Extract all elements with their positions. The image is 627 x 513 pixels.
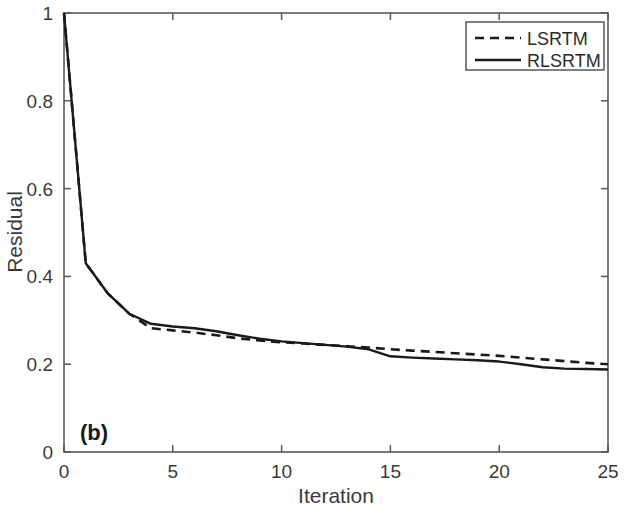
y-axis-title: Residual	[3, 191, 26, 273]
chart-canvas: 0510152025 00.20.40.60.81 Iteration Resi…	[0, 0, 627, 513]
x-axis-title: Iteration	[298, 484, 374, 507]
legend: LSRTM RLSRTM	[466, 22, 604, 71]
residual-convergence-chart: 0510152025 00.20.40.60.81 Iteration Resi…	[0, 0, 627, 513]
y-tick-label: 0.4	[27, 266, 54, 287]
y-tick-label: 0	[42, 442, 53, 463]
x-tick-label: 10	[271, 461, 292, 482]
panel-label: (b)	[80, 420, 108, 445]
x-tick-label: 25	[597, 461, 618, 482]
y-tick-label: 0.6	[27, 179, 53, 200]
y-tick-label: 0.8	[27, 91, 53, 112]
legend-label-lsrtm: LSRTM	[527, 29, 588, 49]
legend-label-rlsrtm: RLSRTM	[527, 51, 601, 71]
y-tick-label: 1	[42, 3, 53, 24]
x-tick-label: 0	[59, 461, 70, 482]
x-tick-label: 15	[380, 461, 401, 482]
x-tick-label: 20	[489, 461, 510, 482]
y-tick-label: 0.2	[27, 354, 53, 375]
x-tick-label: 5	[168, 461, 179, 482]
